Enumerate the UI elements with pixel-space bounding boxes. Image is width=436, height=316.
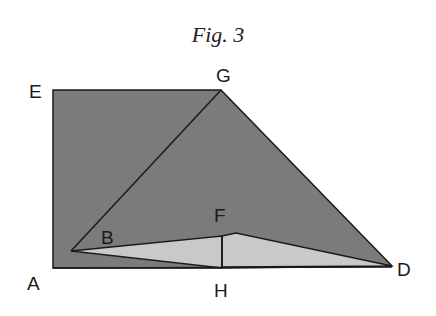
label-d: D <box>397 259 411 280</box>
label-a: A <box>27 273 40 294</box>
label-f: F <box>214 205 226 226</box>
label-h: H <box>214 280 228 301</box>
label-e: E <box>29 81 42 102</box>
line-ad <box>53 267 392 268</box>
label-b: B <box>101 227 114 248</box>
geometry-diagram: E G A B F H D <box>0 0 436 316</box>
label-g: G <box>216 65 231 86</box>
